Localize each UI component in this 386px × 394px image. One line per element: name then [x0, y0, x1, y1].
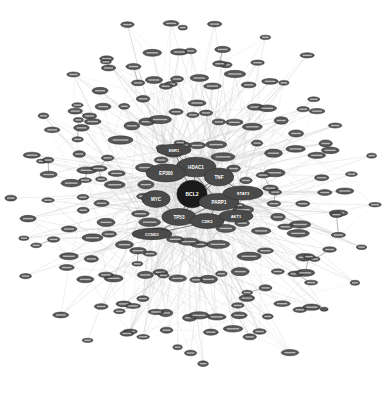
graph-node[interactable]	[114, 309, 125, 314]
graph-node[interactable]	[154, 157, 168, 163]
graph-node[interactable]	[305, 280, 318, 285]
graph-node[interactable]	[173, 345, 182, 350]
graph-node[interactable]	[187, 112, 199, 117]
graph-node[interactable]	[185, 48, 197, 54]
graph-node[interactable]	[40, 171, 57, 178]
graph-node[interactable]	[178, 25, 187, 30]
graph-node[interactable]	[308, 152, 326, 158]
graph-node[interactable]	[120, 331, 134, 336]
graph-node[interactable]	[318, 190, 332, 196]
graph-node[interactable]	[138, 181, 154, 189]
graph-node[interactable]	[72, 103, 83, 108]
graph-node[interactable]	[5, 195, 17, 201]
graph-node[interactable]	[241, 82, 256, 88]
graph-node[interactable]	[213, 61, 227, 67]
graph-hub-node-ep300[interactable]: EP300	[146, 164, 186, 182]
graph-node[interactable]	[369, 202, 381, 206]
graph-node[interactable]	[204, 329, 219, 335]
graph-node[interactable]	[189, 142, 206, 149]
graph-node[interactable]	[132, 262, 143, 267]
graph-node[interactable]	[108, 170, 125, 176]
graph-node[interactable]	[321, 147, 339, 154]
graph-node[interactable]	[207, 21, 221, 27]
graph-node[interactable]	[19, 236, 29, 240]
graph-node[interactable]	[357, 245, 367, 250]
graph-node[interactable]	[102, 231, 117, 237]
graph-node[interactable]	[286, 146, 305, 153]
graph-node[interactable]	[212, 119, 225, 125]
graph-node[interactable]	[253, 329, 266, 335]
graph-node[interactable]	[319, 140, 332, 147]
graph-node[interactable]	[330, 212, 343, 218]
graph-node[interactable]	[84, 256, 98, 263]
graph-node[interactable]	[231, 312, 247, 319]
graph-node[interactable]	[297, 107, 310, 112]
graph-node[interactable]	[77, 207, 89, 213]
graph-node[interactable]	[125, 303, 140, 308]
graph-node[interactable]	[331, 232, 345, 237]
graph-node[interactable]	[350, 280, 359, 285]
graph-node[interactable]	[211, 153, 235, 161]
graph-node[interactable]	[20, 215, 36, 222]
graph-node[interactable]	[269, 189, 282, 195]
graph-hub-node-myc[interactable]: MYC	[142, 191, 170, 208]
graph-node[interactable]	[158, 273, 169, 278]
graph-node[interactable]	[148, 309, 164, 314]
graph-node[interactable]	[163, 21, 179, 27]
graph-node[interactable]	[74, 125, 90, 132]
graph-node[interactable]	[262, 314, 273, 319]
graph-node[interactable]	[59, 265, 74, 271]
graph-node[interactable]	[293, 307, 307, 312]
graph-node[interactable]	[44, 127, 60, 133]
graph-node[interactable]	[367, 153, 377, 158]
graph-node[interactable]	[199, 110, 212, 116]
graph-node[interactable]	[101, 65, 115, 71]
graph-node[interactable]	[136, 96, 150, 103]
graph-node[interactable]	[274, 301, 290, 307]
graph-node[interactable]	[61, 179, 81, 187]
graph-node[interactable]	[224, 70, 246, 77]
graph-node[interactable]	[94, 304, 108, 310]
graph-node[interactable]	[96, 177, 107, 182]
graph-node[interactable]	[309, 108, 325, 113]
graph-node[interactable]	[265, 149, 283, 157]
graph-node[interactable]	[251, 228, 271, 235]
graph-node[interactable]	[94, 200, 109, 207]
graph-node[interactable]	[132, 211, 150, 217]
graph-node[interactable]	[68, 108, 82, 114]
graph-node[interactable]	[262, 78, 279, 84]
graph-node[interactable]	[148, 115, 171, 123]
graph-node[interactable]	[315, 175, 329, 181]
graph-node[interactable]	[31, 243, 42, 248]
graph-node[interactable]	[77, 276, 94, 283]
graph-node[interactable]	[323, 247, 337, 253]
graph-node[interactable]	[143, 49, 162, 56]
graph-node[interactable]	[104, 181, 125, 189]
graph-node[interactable]	[251, 140, 262, 146]
graph-node[interactable]	[137, 335, 150, 340]
graph-node[interactable]	[126, 64, 141, 70]
graph-node[interactable]	[101, 60, 112, 64]
graph-node[interactable]	[82, 113, 96, 119]
graph-node[interactable]	[206, 240, 230, 248]
graph-node[interactable]	[287, 230, 309, 238]
graph-node[interactable]	[256, 172, 270, 178]
graph-node[interactable]	[73, 151, 86, 158]
graph-node[interactable]	[320, 307, 328, 311]
graph-node[interactable]	[271, 269, 284, 274]
graph-node[interactable]	[23, 152, 40, 158]
graph-node[interactable]	[240, 177, 252, 183]
graph-node[interactable]	[242, 123, 262, 130]
graph-node[interactable]	[260, 35, 271, 39]
graph-hub-node-tnf[interactable]: TNF	[204, 168, 233, 186]
graph-node[interactable]	[274, 117, 288, 124]
graph-node[interactable]	[119, 103, 130, 109]
graph-node[interactable]	[20, 274, 32, 279]
graph-node[interactable]	[223, 325, 243, 332]
graph-node[interactable]	[303, 254, 315, 260]
graph-node[interactable]	[84, 119, 101, 125]
graph-node[interactable]	[145, 76, 162, 83]
graph-node[interactable]	[278, 224, 293, 230]
graph-node[interactable]	[281, 350, 299, 356]
graph-node[interactable]	[67, 72, 80, 77]
